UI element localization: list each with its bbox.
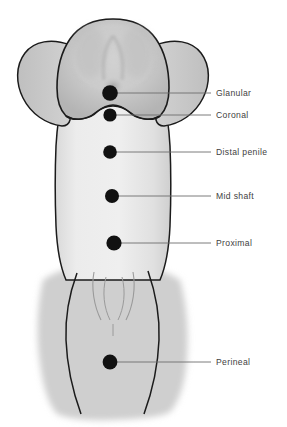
marker-dot-coronal xyxy=(103,108,116,121)
marker-dot-distal-penile xyxy=(103,145,117,159)
label-coronal: Coronal xyxy=(216,111,249,120)
label-glanular: Glanular xyxy=(216,89,251,98)
marker-dot-perineal xyxy=(103,355,118,370)
penile-shaft xyxy=(55,98,171,280)
marker-dot-proximal xyxy=(106,235,121,250)
glans xyxy=(57,19,169,119)
scrotum-soft-mass xyxy=(38,264,188,420)
label-perineal: Perineal xyxy=(216,358,250,367)
label-mid-shaft: Mid shaft xyxy=(216,192,254,201)
figure-canvas: Glanular Coronal Distal penile Mid shaft… xyxy=(0,0,287,427)
marker-dot-mid-shaft xyxy=(105,189,119,203)
label-proximal: Proximal xyxy=(216,239,252,248)
marker-dot-glanular xyxy=(102,85,118,101)
label-distal-penile: Distal penile xyxy=(216,148,267,157)
